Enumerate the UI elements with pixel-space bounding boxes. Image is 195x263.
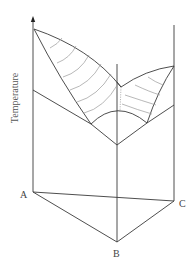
liquidus-surface-C: [121, 66, 174, 123]
temperature-axis: [31, 16, 35, 192]
base-triangle: [33, 192, 174, 242]
axis-arrow-icon: [31, 16, 35, 22]
eutectic-plane-edges: [33, 90, 174, 145]
temperature-label: Temperature: [9, 72, 20, 123]
eutectic-valley: [91, 82, 147, 124]
liquidus-surface-A: [34, 29, 121, 124]
vertex-label-b: B: [113, 248, 120, 259]
vertex-label-c: C: [179, 198, 186, 209]
prism-vertical-edges: [117, 25, 174, 242]
vertex-label-a: A: [20, 189, 28, 200]
ternary-phase-diagram: Temperature A B C: [0, 0, 195, 263]
